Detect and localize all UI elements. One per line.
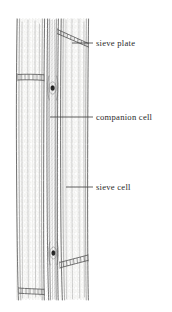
label-companion-cell: companion cell [96, 112, 153, 122]
companion-cell [45, 18, 60, 301]
label-sieve-cell: sieve cell [96, 182, 131, 192]
phloem-diagram: sieve plate companion cell sieve cell [0, 0, 172, 312]
label-sieve-plate: sieve plate [96, 38, 135, 48]
figure-root: sieve plate companion cell sieve cell [0, 0, 172, 312]
left-sieve-cell [15, 18, 46, 301]
